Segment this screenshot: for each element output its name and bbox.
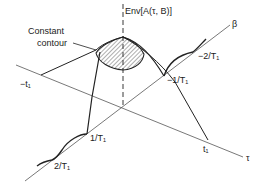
envelope-label: Env[A(τ, B)]: [125, 6, 172, 16]
constant-contour-region: [96, 37, 144, 70]
tick-beta-neg-2: −2/T₁: [198, 51, 219, 61]
beta-ridge-down: [87, 52, 100, 134]
tick-beta-pos-2: 2/T₁: [54, 161, 70, 171]
sidelobe-pos-2: [37, 160, 52, 166]
contour-pointer: [73, 43, 96, 50]
tick-beta-pos-1: 1/T₁: [90, 133, 106, 143]
ambiguity-function-diagram: Env[A(τ, B)] Constant contour β τ −t₁ t₁…: [0, 0, 263, 192]
tick-neg-t1: −t₁: [20, 79, 31, 89]
tick-pos-t1: t₁: [203, 144, 209, 154]
tau-axis-label: τ: [246, 153, 250, 163]
contour-label-line1: Constant: [28, 26, 65, 36]
beta-axis-label: β: [232, 19, 237, 29]
tau-axis: [16, 65, 243, 157]
tick-beta-neg-1: −1/T₁: [167, 75, 188, 85]
contour-label-line2: contour: [37, 38, 67, 48]
